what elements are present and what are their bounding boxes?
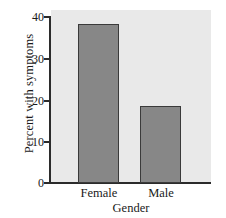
y-tick-label-0: 0 bbox=[22, 177, 44, 189]
bar-chart: Percent with symptoms 40 30 20 10 0 Fema… bbox=[0, 0, 226, 218]
y-tick-label-40: 40 bbox=[22, 11, 44, 23]
x-tick-label-female: Female bbox=[68, 186, 130, 201]
y-tick-label-10: 10 bbox=[22, 136, 44, 148]
x-axis-title: Gender bbox=[51, 201, 211, 216]
x-axis-line bbox=[49, 182, 211, 184]
y-tick-label-30: 30 bbox=[22, 53, 44, 65]
y-tick-mark-20 bbox=[44, 100, 50, 102]
y-tick-mark-40 bbox=[44, 16, 50, 18]
y-axis-tick-labels: 40 30 20 10 0 bbox=[20, 0, 44, 218]
y-tick-mark-30 bbox=[44, 58, 50, 60]
bar-female bbox=[78, 24, 119, 183]
plot-area bbox=[51, 10, 211, 183]
y-tick-mark-10 bbox=[44, 141, 50, 143]
bar-male bbox=[140, 106, 181, 183]
x-tick-label-male: Male bbox=[131, 186, 191, 201]
y-tick-label-20: 20 bbox=[22, 95, 44, 107]
